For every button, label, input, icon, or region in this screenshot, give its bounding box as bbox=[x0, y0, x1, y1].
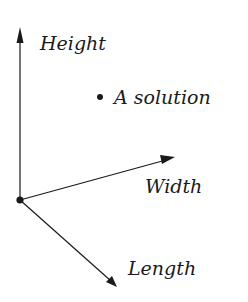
solution-label: A solution bbox=[112, 86, 211, 108]
width-arrowhead-icon bbox=[160, 155, 175, 164]
height-label: Height bbox=[39, 32, 106, 54]
height-axis bbox=[17, 27, 24, 200]
solution-space-diagram: Height A solution Width Length bbox=[0, 0, 248, 302]
length-label: Length bbox=[127, 257, 196, 279]
height-arrowhead-icon bbox=[17, 27, 24, 43]
origin-point bbox=[16, 196, 23, 203]
length-axis bbox=[20, 200, 117, 287]
width-label: Width bbox=[145, 175, 202, 197]
solution-point bbox=[97, 94, 103, 100]
